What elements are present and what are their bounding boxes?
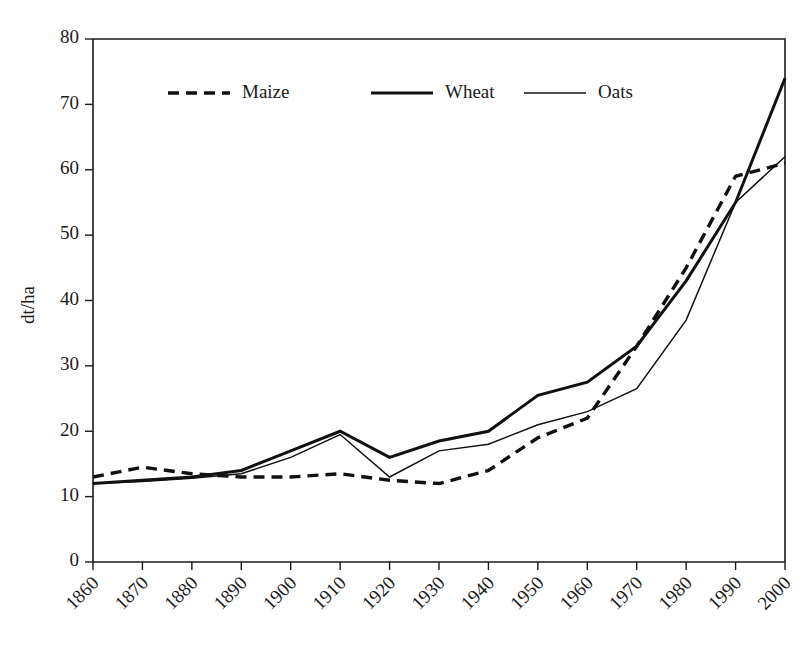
y-tick-label: 0 bbox=[70, 549, 80, 570]
x-tick-label: 1930 bbox=[407, 572, 449, 614]
legend-label-wheat: Wheat bbox=[445, 81, 495, 102]
series-line-oats bbox=[93, 157, 785, 484]
y-axis-title: dt/ha bbox=[17, 285, 38, 324]
x-tick-label: 1870 bbox=[111, 572, 153, 614]
chart-legend: MaizeWheatOats bbox=[168, 81, 633, 102]
y-tick-label: 70 bbox=[60, 92, 79, 113]
x-tick-label: 1940 bbox=[457, 572, 499, 614]
data-series-layer bbox=[93, 78, 785, 483]
y-tick-label: 50 bbox=[60, 222, 79, 243]
x-tick-label: 1910 bbox=[308, 572, 350, 614]
x-tick-label: 1950 bbox=[506, 572, 548, 614]
crop-yield-line-chart: 01020304050607080 1860187018801890190019… bbox=[0, 0, 811, 645]
series-line-wheat bbox=[93, 78, 785, 483]
x-tick-label: 1880 bbox=[160, 572, 202, 614]
x-tick-label: 2000 bbox=[753, 572, 795, 614]
y-tick-label: 40 bbox=[60, 288, 79, 309]
y-tick-label: 30 bbox=[60, 353, 79, 374]
legend-label-oats: Oats bbox=[598, 81, 633, 102]
y-tick-label: 20 bbox=[60, 419, 79, 440]
x-tick-label: 1920 bbox=[358, 572, 400, 614]
legend-label-maize: Maize bbox=[242, 81, 289, 102]
x-tick-label: 1900 bbox=[259, 572, 301, 614]
x-tick-label: 1990 bbox=[704, 572, 746, 614]
series-line-maize bbox=[93, 163, 785, 483]
y-axis-ticks: 01020304050607080 bbox=[60, 26, 93, 570]
y-tick-label: 60 bbox=[60, 157, 79, 178]
x-tick-label: 1890 bbox=[209, 572, 251, 614]
x-axis-ticks: 1860187018801890190019101920193019401950… bbox=[61, 562, 795, 614]
x-tick-label: 1970 bbox=[605, 572, 647, 614]
y-tick-label: 80 bbox=[60, 26, 79, 47]
x-tick-label: 1980 bbox=[654, 572, 696, 614]
x-tick-label: 1860 bbox=[61, 572, 103, 614]
x-tick-label: 1960 bbox=[555, 572, 597, 614]
chart-figure: 01020304050607080 1860187018801890190019… bbox=[0, 0, 811, 645]
y-tick-label: 10 bbox=[60, 484, 79, 505]
